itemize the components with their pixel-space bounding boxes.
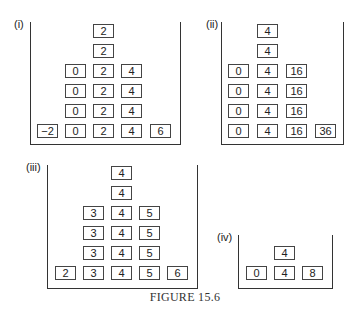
value-box: 8 <box>302 266 323 280</box>
figure-caption: FIGURE 15.6 <box>0 290 360 305</box>
value-box: 2 <box>93 44 114 58</box>
value-box: 0 <box>228 84 249 98</box>
value-box: 16 <box>286 104 307 118</box>
value-box: 2 <box>93 64 114 78</box>
panel-label: (iii) <box>26 161 41 173</box>
value-box: 3 <box>83 266 104 280</box>
panel-label: (iv) <box>217 231 232 243</box>
value-box: 0 <box>246 266 267 280</box>
value-box: 4 <box>121 64 142 78</box>
value-box: 3 <box>83 206 104 220</box>
value-box: 2 <box>93 104 114 118</box>
value-box: 4 <box>274 246 295 260</box>
value-box: 4 <box>121 104 142 118</box>
value-box: −2 <box>37 124 58 138</box>
value-box: 2 <box>93 84 114 98</box>
value-box: 4 <box>257 84 278 98</box>
value-box: 16 <box>286 124 307 138</box>
value-box: 4 <box>121 124 142 138</box>
value-box: 0 <box>65 104 86 118</box>
value-box: 4 <box>111 186 132 200</box>
value-box: 5 <box>139 226 160 240</box>
value-box: 4 <box>111 166 132 180</box>
value-box: 4 <box>257 44 278 58</box>
value-box: 36 <box>315 124 336 138</box>
value-box: 0 <box>65 84 86 98</box>
value-box: 16 <box>286 84 307 98</box>
value-box: 4 <box>257 64 278 78</box>
value-box: 6 <box>150 124 171 138</box>
value-box: 3 <box>83 246 104 260</box>
value-box: 2 <box>93 24 114 38</box>
value-box: 0 <box>228 64 249 78</box>
value-box: 0 <box>65 64 86 78</box>
container <box>238 235 333 289</box>
value-box: 6 <box>167 266 188 280</box>
value-box: 4 <box>257 104 278 118</box>
value-box: 16 <box>286 64 307 78</box>
value-box: 4 <box>257 124 278 138</box>
value-box: 0 <box>228 124 249 138</box>
value-box: 3 <box>83 226 104 240</box>
value-box: 5 <box>139 246 160 260</box>
value-box: 4 <box>111 266 132 280</box>
value-box: 0 <box>65 124 86 138</box>
value-box: 4 <box>274 266 295 280</box>
value-box: 4 <box>257 24 278 38</box>
value-box: 0 <box>228 104 249 118</box>
panel-label: (i) <box>14 18 24 30</box>
panel-label: (ii) <box>206 18 218 30</box>
value-box: 2 <box>55 266 76 280</box>
value-box: 5 <box>139 266 160 280</box>
value-box: 2 <box>93 124 114 138</box>
value-box: 5 <box>139 206 160 220</box>
value-box: 4 <box>111 206 132 220</box>
value-box: 4 <box>111 246 132 260</box>
value-box: 4 <box>111 226 132 240</box>
value-box: 4 <box>121 84 142 98</box>
